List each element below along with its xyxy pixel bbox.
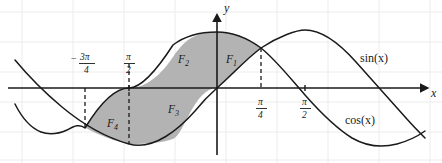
cos-curve-label: cos(x) bbox=[345, 113, 375, 127]
region-f1-shape bbox=[217, 32, 261, 88]
y-axis-arrowhead bbox=[212, 13, 222, 22]
svg-text:π: π bbox=[302, 97, 307, 107]
svg-text:π: π bbox=[258, 97, 263, 107]
svg-text:π: π bbox=[126, 52, 131, 62]
svg-text:−: − bbox=[71, 53, 77, 64]
y-axis-label: y bbox=[223, 1, 230, 15]
x-axis-arrowhead bbox=[420, 83, 430, 93]
x-axis-label: x bbox=[430, 86, 437, 100]
trig-area-figure: y x sin(x) cos(x) F 2 F 1 F 3 F 4 − 3π 4 bbox=[0, 0, 442, 163]
svg-text:2: 2 bbox=[302, 110, 307, 120]
region-f2-shape bbox=[129, 32, 217, 88]
sin-curve-label: sin(x) bbox=[360, 51, 388, 65]
figure-canvas: y x sin(x) cos(x) F 2 F 1 F 3 F 4 − 3π 4 bbox=[0, 0, 442, 163]
svg-text:1: 1 bbox=[233, 59, 237, 68]
svg-text:4: 4 bbox=[258, 110, 263, 120]
svg-text:2: 2 bbox=[126, 65, 131, 75]
svg-text:4: 4 bbox=[114, 123, 118, 132]
svg-text:3: 3 bbox=[174, 109, 179, 118]
region-f3-shape bbox=[129, 88, 217, 144]
svg-text:4: 4 bbox=[84, 65, 89, 75]
svg-text:2: 2 bbox=[185, 59, 189, 68]
ticklabel-pi-over-four: π 4 bbox=[256, 97, 267, 120]
svg-text:3π: 3π bbox=[79, 52, 90, 62]
